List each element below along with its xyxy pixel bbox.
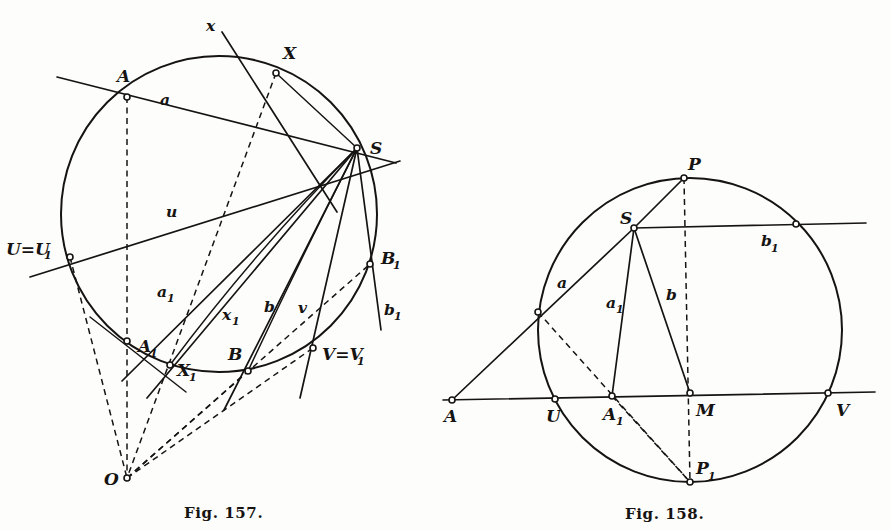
fig158-label-line-b: b: [666, 285, 677, 304]
fig158-caption: Fig. 158.: [625, 505, 704, 523]
fig158-point-A: [449, 397, 455, 403]
fig158-label-P: P: [687, 154, 702, 174]
fig157-circle: [61, 56, 377, 372]
fig157-label-X1-sub: 1: [189, 371, 197, 384]
fig157-label-V-sub: 1: [357, 355, 365, 368]
fig157-point-S: [354, 145, 360, 151]
fig157-point-O: [124, 475, 130, 481]
fig158-point-b1-circle: [793, 221, 799, 227]
fig158-label-A1: A: [601, 404, 616, 424]
fig158-label-A: A: [442, 406, 457, 426]
fig157-label-line-x1: x: [221, 305, 232, 324]
fig157-label-line-a1-sub: 1: [167, 292, 175, 305]
fig158-label-P1-sub: 1: [708, 470, 716, 483]
fig158-label-V: V: [836, 400, 851, 420]
fig158-label-A1-sub: 1: [616, 415, 624, 428]
fig157-point-B1: [367, 261, 373, 267]
fig157-line-b1: [357, 148, 381, 330]
figure-page: A X S U=U 1 B 1 A 1 X 1 B V=V 1 O a u a …: [0, 0, 891, 530]
fig157-label-line-b1-sub: 1: [394, 310, 402, 323]
fig158-point-a-circle: [535, 309, 541, 315]
fig158-point-P1: [687, 479, 693, 485]
fig157-label-A1-sub: 1: [150, 347, 158, 360]
fig158-label-line-a1-sub: 1: [616, 303, 624, 316]
fig157-point-X: [273, 70, 279, 76]
fig157-label-A1: A: [136, 336, 151, 356]
fig157-label-U-sub: 1: [44, 249, 52, 262]
fig158-point-P: [681, 175, 687, 181]
fig157-label-line-v: v: [298, 298, 308, 317]
fig157-dashed-X-O: [127, 73, 276, 478]
figure-157: A X S U=U 1 B 1 A 1 X 1 B V=V 1 O a u a …: [6, 16, 402, 522]
fig157-label-line-a1: a: [157, 282, 167, 301]
fig157-label-B: B: [227, 344, 242, 364]
fig158-label-line-a1: a: [606, 293, 616, 312]
fig157-label-X: X: [282, 43, 297, 63]
fig158-dashed-b: [684, 178, 690, 482]
fig158-point-V: [825, 390, 831, 396]
fig157-label-S: S: [370, 138, 382, 158]
figure-158: P S A U A 1 M V P 1 a a 1 b b 1 Fig. 158…: [442, 154, 875, 523]
fig158-label-S: S: [620, 208, 632, 228]
fig158-line-S-M: [634, 228, 690, 393]
fig157-point-B: [245, 368, 251, 374]
fig157-dashed-U-O: [70, 257, 127, 478]
geometry-figures-svg: A X S U=U 1 B 1 A 1 X 1 B V=V 1 O a u a …: [0, 0, 891, 530]
fig157-label-A: A: [115, 66, 130, 86]
fig157-label-line-x1-sub: 1: [232, 315, 240, 328]
fig158-line-base: [443, 392, 875, 400]
fig158-label-M: M: [695, 400, 716, 420]
fig158-point-A1: [609, 393, 615, 399]
fig158-line-a: [452, 228, 634, 400]
fig157-point-A1: [124, 338, 130, 344]
fig157-label-B1-sub: 1: [393, 259, 401, 272]
fig158-label-line-a: a: [557, 273, 567, 292]
fig157-label-line-u: u: [166, 202, 177, 221]
fig158-label-line-b1-sub: 1: [771, 242, 779, 255]
fig157-line-u: [30, 161, 400, 277]
fig157-label-line-a: a: [160, 90, 170, 109]
fig158-line-b1: [634, 223, 866, 228]
fig157-label-line-x: x: [205, 16, 216, 35]
fig157-point-V: [310, 345, 316, 351]
fig158-label-U: U: [546, 406, 562, 426]
fig157-label-line-b: b: [264, 297, 275, 316]
fig157-point-A: [124, 94, 130, 100]
fig158-point-U: [552, 396, 558, 402]
fig157-caption: Fig. 157.: [184, 504, 263, 522]
fig158-point-M: [687, 390, 693, 396]
fig157-point-X1: [167, 362, 173, 368]
fig157-point-U: [67, 254, 73, 260]
fig157-label-O: O: [104, 469, 119, 489]
